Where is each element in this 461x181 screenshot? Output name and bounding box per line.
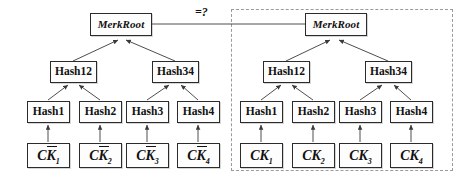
left-leaf-4-base: K [197, 149, 206, 163]
right-merkroot-node: MerkRoot [305, 13, 367, 36]
right-hash3-node: Hash3 [339, 101, 382, 123]
right-leaf-2-subscript: 2 [321, 158, 325, 166]
left-hash12-node: Hash12 [50, 61, 97, 83]
equality-question-label: =? [195, 5, 208, 20]
right-leaf-1-symbol: CK1 [250, 149, 273, 163]
left-leaf-4-subscript: 4 [206, 158, 210, 166]
right-leaf-3-base: K [359, 149, 368, 163]
merkle-comparison-figure: =? MerkRoot Hash12 Hash34 Hash1 Hash2 Ha… [0, 0, 461, 181]
right-hash12-node: Hash12 [263, 61, 310, 83]
left-leaf-2-subscript: 2 [108, 158, 112, 166]
left-merkroot-node: MerkRoot [90, 13, 152, 36]
left-hash2-node: Hash2 [79, 101, 122, 123]
left-leaf-4-symbol: CK4 [187, 149, 210, 163]
left-leaf-3: CK3 [126, 143, 169, 168]
right-leaf-1-base: K [260, 149, 269, 163]
left-hash3-node: Hash3 [126, 101, 169, 123]
left-leaf-4-prefix: C [187, 149, 196, 163]
left-leaf-2-base: K [99, 149, 108, 163]
right-leaf-1: CK1 [240, 143, 283, 168]
left-hash4-node: Hash4 [177, 101, 220, 123]
right-leaf-4-subscript: 4 [419, 158, 423, 166]
left-leaf-1-symbol: CK1 [37, 149, 60, 163]
right-hash2-node: Hash2 [292, 101, 335, 123]
right-leaf-1-subscript: 1 [269, 158, 273, 166]
left-leaf-3-prefix: C [136, 149, 145, 163]
left-leaf-2: CK2 [79, 143, 122, 168]
right-leaf-3-symbol: CK3 [349, 149, 372, 163]
left-leaf-4: CK4 [177, 143, 220, 168]
right-leaf-4-prefix: C [400, 149, 409, 163]
right-leaf-3-prefix: C [349, 149, 358, 163]
left-leaf-2-prefix: C [89, 149, 98, 163]
right-leaf-2-base: K [312, 149, 321, 163]
right-leaf-4: CK4 [390, 143, 433, 168]
right-leaf-3: CK3 [339, 143, 382, 168]
left-hash34-node: Hash34 [152, 61, 199, 83]
left-leaf-3-base: K [146, 149, 155, 163]
left-leaf-2-symbol: CK2 [89, 149, 112, 163]
right-leaf-1-prefix: C [250, 149, 259, 163]
left-leaf-1: CK1 [27, 143, 70, 168]
left-leaf-3-subscript: 3 [155, 158, 159, 166]
right-leaf-4-symbol: CK4 [400, 149, 423, 163]
left-hash1-node: Hash1 [27, 101, 70, 123]
right-hash4-node: Hash4 [390, 101, 433, 123]
left-leaf-1-prefix: C [37, 149, 46, 163]
left-leaf-1-base: K [47, 149, 56, 163]
left-leaf-1-subscript: 1 [56, 158, 60, 166]
right-leaf-4-base: K [410, 149, 419, 163]
right-leaf-2-prefix: C [302, 149, 311, 163]
right-hash1-node: Hash1 [240, 101, 283, 123]
left-leaf-3-symbol: CK3 [136, 149, 159, 163]
right-leaf-3-subscript: 3 [368, 158, 372, 166]
right-leaf-2-symbol: CK2 [302, 149, 325, 163]
right-hash34-node: Hash34 [365, 61, 412, 83]
right-leaf-2: CK2 [292, 143, 335, 168]
